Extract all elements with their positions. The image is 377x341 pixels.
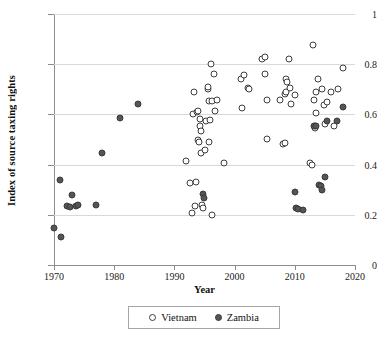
data-point-vietnam: [309, 42, 316, 49]
gridline: [54, 64, 355, 65]
x-axis-line: [54, 265, 356, 266]
data-point-zambia: [319, 186, 326, 193]
data-point-zambia: [291, 188, 298, 195]
x-tick-label: 2000: [215, 271, 255, 282]
data-point-zambia: [99, 149, 106, 156]
data-point-vietnam: [291, 91, 298, 98]
data-point-vietnam: [239, 105, 246, 112]
data-point-zambia: [321, 174, 328, 181]
x-tick-label: 1980: [94, 271, 134, 282]
data-point-vietnam: [308, 162, 315, 169]
data-point-vietnam: [209, 212, 216, 219]
data-point-vietnam: [246, 86, 253, 93]
plot-area: [54, 14, 355, 265]
data-point-vietnam: [213, 97, 220, 104]
data-point-zambia: [324, 118, 331, 125]
scatter-chart-figure: Index of source taxing rights 00.20.40.6…: [0, 0, 377, 341]
legend-label: Zambia: [227, 312, 259, 323]
data-point-zambia: [51, 225, 58, 232]
data-point-vietnam: [206, 117, 213, 124]
data-point-zambia: [57, 177, 64, 184]
data-point-vietnam: [212, 107, 219, 114]
data-point-vietnam: [191, 89, 198, 96]
data-point-vietnam: [335, 86, 342, 93]
data-point-vietnam: [311, 97, 318, 104]
data-point-zambia: [75, 201, 82, 208]
data-point-vietnam: [199, 204, 206, 211]
x-tick-label: 1970: [34, 271, 74, 282]
data-point-vietnam: [194, 107, 201, 114]
data-point-vietnam: [285, 55, 292, 62]
x-tick-label: 1990: [154, 271, 194, 282]
data-point-vietnam: [288, 100, 295, 107]
x-tick-mark: [355, 265, 356, 270]
data-point-vietnam: [261, 71, 268, 78]
data-point-vietnam: [188, 210, 195, 217]
data-point-vietnam: [207, 60, 214, 67]
data-point-vietnam: [183, 157, 190, 164]
data-point-vietnam: [324, 99, 331, 106]
x-tick-mark: [174, 265, 175, 270]
data-point-zambia: [200, 194, 207, 201]
x-tick-mark: [235, 265, 236, 270]
data-point-vietnam: [281, 139, 288, 146]
chart-legend: VietnamZambia: [128, 306, 280, 329]
data-point-vietnam: [286, 85, 293, 92]
x-tick-mark: [295, 265, 296, 270]
data-point-zambia: [333, 117, 340, 124]
data-point-vietnam: [261, 54, 268, 61]
data-point-vietnam: [196, 139, 203, 146]
open-circle-icon: [149, 314, 156, 321]
data-point-vietnam: [314, 75, 321, 82]
data-point-vietnam: [264, 135, 271, 142]
data-point-zambia: [300, 206, 307, 213]
x-tick-label: 2010: [275, 271, 315, 282]
data-point-vietnam: [277, 97, 284, 104]
data-point-zambia: [135, 101, 142, 108]
gridline: [54, 215, 355, 216]
data-point-vietnam: [206, 139, 213, 146]
gridline: [54, 14, 355, 15]
gridline: [54, 114, 355, 115]
filled-circle-icon: [215, 314, 222, 321]
data-point-vietnam: [241, 72, 248, 79]
data-point-zambia: [339, 103, 346, 110]
data-point-vietnam: [193, 179, 200, 186]
data-point-zambia: [93, 202, 100, 209]
data-point-zambia: [58, 234, 65, 241]
data-point-zambia: [117, 114, 124, 121]
x-tick-label: 2020: [335, 271, 375, 282]
data-point-vietnam: [318, 86, 325, 93]
data-point-zambia: [69, 191, 76, 198]
x-tick-mark: [54, 265, 55, 270]
legend-entry-zambia: Zambia: [215, 312, 259, 323]
legend-entry-vietnam: Vietnam: [149, 312, 197, 323]
data-point-vietnam: [312, 110, 319, 117]
y-axis-title: Index of source taxing rights: [2, 14, 20, 266]
data-point-vietnam: [263, 97, 270, 104]
data-point-vietnam: [211, 70, 218, 77]
data-point-vietnam: [205, 83, 212, 90]
data-point-vietnam: [202, 146, 209, 153]
legend-label: Vietnam: [161, 312, 197, 323]
data-point-vietnam: [327, 88, 334, 95]
data-point-zambia: [312, 123, 319, 130]
data-point-vietnam: [197, 128, 204, 135]
data-point-vietnam: [339, 65, 346, 72]
x-tick-mark: [114, 265, 115, 270]
data-point-vietnam: [221, 160, 228, 167]
x-axis-title: Year: [54, 284, 355, 295]
